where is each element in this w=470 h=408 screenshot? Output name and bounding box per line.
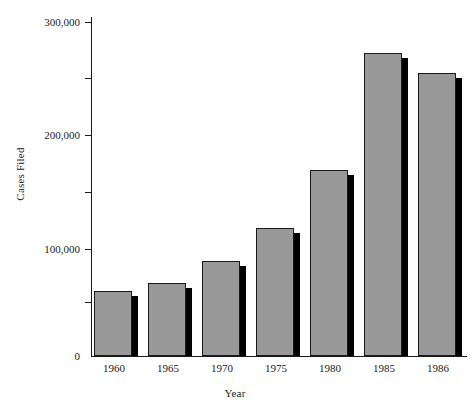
x-axis-tick-labels: 1960 1965 1970 1975 1980 1985 1986 bbox=[91, 0, 467, 408]
x-tick-label-1980: 1980 bbox=[303, 363, 357, 374]
x-tick-label-1986: 1986 bbox=[411, 363, 465, 374]
x-tick-label-1965: 1965 bbox=[141, 363, 195, 374]
x-axis-title: Year bbox=[0, 387, 470, 399]
x-tick-label-1975: 1975 bbox=[249, 363, 303, 374]
x-tick-label-1970: 1970 bbox=[195, 363, 249, 374]
x-tick-label-1985: 1985 bbox=[357, 363, 411, 374]
y-axis-tick-labels: 300,000 200,000 100,000 0 bbox=[8, 0, 80, 408]
bar-chart: Cases Filed 300,000 200,000 100,000 0 bbox=[0, 0, 470, 408]
y-tick-label-100000: 100,000 bbox=[10, 244, 80, 255]
y-tick-label-300000: 300,000 bbox=[10, 17, 80, 28]
y-tick-label-200000: 200,000 bbox=[10, 130, 80, 141]
y-tick-label-0: 0 bbox=[10, 351, 80, 362]
x-tick-label-1960: 1960 bbox=[87, 363, 141, 374]
